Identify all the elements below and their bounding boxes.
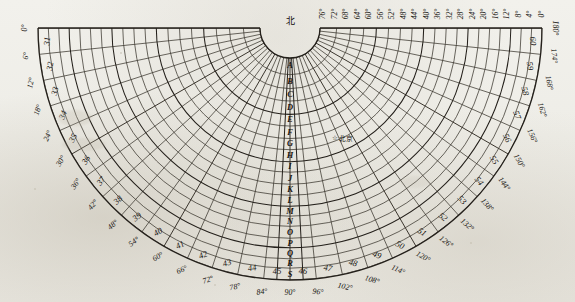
outer-degree-label: 180° — [551, 21, 559, 36]
center-letter-b: B — [287, 77, 293, 85]
pole-notch — [260, 28, 320, 58]
outer-degree-label: 0° — [21, 24, 29, 31]
center-letter-r: R — [287, 260, 293, 268]
top-degree-label: 48° — [400, 9, 408, 20]
top-degree-label: 4° — [527, 11, 535, 18]
top-degree-label: 36° — [434, 9, 442, 20]
center-letter-f: F — [287, 128, 293, 136]
north-label: 北 — [286, 17, 295, 26]
outer-degree-label: 174° — [549, 48, 558, 64]
top-degree-label: 52° — [388, 9, 396, 20]
center-letter-h: H — [287, 152, 294, 160]
top-degree-label: 64° — [354, 9, 362, 20]
chart-stage: 76°72°68°64°60°56°52°48°44°40°36°32°28°2… — [0, 0, 575, 302]
top-degree-label: 32° — [446, 9, 454, 20]
outer-number-label: 47 — [323, 263, 333, 273]
center-letter-n: N — [287, 218, 293, 226]
outer-number-label: 32 — [45, 61, 55, 71]
outer-number-label: 58 — [519, 86, 530, 97]
top-degree-label: 24° — [469, 9, 477, 20]
center-letter-l: L — [287, 196, 292, 204]
center-letter-p: P — [287, 239, 292, 247]
top-degree-label: 44° — [411, 9, 419, 20]
outer-number-label: 48 — [348, 257, 359, 268]
center-letter-c: C — [287, 91, 293, 99]
outer-number-label: 59 — [525, 61, 535, 71]
center-letter-d: D — [287, 104, 293, 112]
center-letter-g: G — [287, 140, 293, 148]
center-letter-o: O — [287, 229, 293, 237]
outer-degree-label: 12° — [26, 77, 36, 89]
star-icon: ☆ — [332, 134, 338, 142]
top-degree-label: 28° — [458, 9, 466, 20]
beijing-label: 北京 — [339, 133, 353, 143]
center-letter-j: J — [288, 174, 292, 182]
top-degree-label: 60° — [365, 9, 373, 20]
top-degree-label: 16° — [492, 9, 500, 20]
center-letter-e: E — [287, 116, 293, 124]
top-degree-label: 56° — [377, 9, 385, 20]
outer-number-label: 44 — [247, 263, 257, 273]
outer-number-label: 31 — [43, 36, 52, 45]
outer-degree-label: 84° — [256, 287, 268, 296]
outer-number-label: 45 — [273, 266, 282, 275]
center-letter-s: S — [288, 271, 293, 279]
top-degree-label: 40° — [423, 9, 431, 20]
center-letter-k: K — [287, 186, 293, 194]
outer-degree-label: 96° — [312, 287, 324, 296]
center-letter-m: M — [286, 207, 293, 215]
center-letter-q: Q — [287, 250, 293, 258]
outer-degree-label: 6° — [22, 52, 30, 60]
outer-degree-label: 90° — [285, 289, 296, 297]
outer-degree-label: 168° — [544, 75, 555, 91]
top-degree-label: 68° — [342, 9, 350, 20]
beijing-marker: ☆ 北京 — [332, 133, 353, 143]
top-degree-label: 72° — [331, 9, 339, 20]
top-degree-label: 8° — [515, 11, 523, 18]
top-degree-label: 0° — [538, 11, 546, 18]
top-degree-label: 12° — [504, 9, 512, 20]
top-degree-label: 20° — [481, 9, 489, 20]
center-letter-a: A — [287, 62, 293, 70]
center-letter-i: I — [288, 163, 291, 171]
outer-number-label: 46 — [298, 266, 307, 275]
top-degree-label: 76° — [319, 9, 327, 20]
outer-number-label: 60 — [528, 36, 537, 45]
